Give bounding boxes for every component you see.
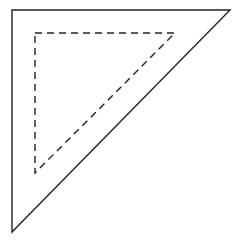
outer-triangle (12, 10, 230, 232)
diagram-canvas (0, 0, 240, 240)
triangle-diagram (0, 0, 240, 240)
inner-dashed-triangle (35, 33, 175, 173)
